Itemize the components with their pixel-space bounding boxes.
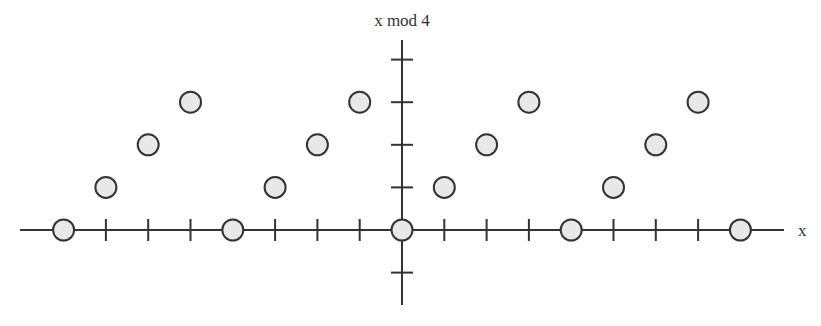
chart-canvas: x x mod 4 <box>0 0 821 326</box>
data-point <box>53 220 74 241</box>
data-point <box>688 92 709 113</box>
data-point <box>265 177 286 198</box>
x-axis-label: x <box>798 221 807 240</box>
data-point <box>561 220 582 241</box>
data-point <box>730 220 751 241</box>
data-point <box>476 134 497 155</box>
y-axis-label: x mod 4 <box>374 11 430 30</box>
axes <box>20 40 784 305</box>
data-point <box>95 177 116 198</box>
data-point <box>349 92 370 113</box>
data-point <box>645 134 666 155</box>
data-point <box>138 134 159 155</box>
data-point <box>434 177 455 198</box>
data-point <box>307 134 328 155</box>
data-point <box>603 177 624 198</box>
data-point <box>518 92 539 113</box>
data-point <box>180 92 201 113</box>
data-point <box>392 220 413 241</box>
data-point <box>222 220 243 241</box>
